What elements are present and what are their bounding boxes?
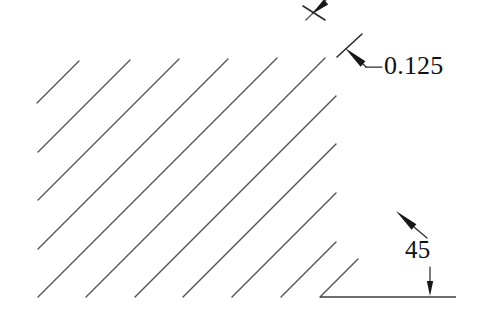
hatch-angle-dimension: 45 <box>396 211 433 296</box>
hatch-line <box>320 259 358 297</box>
top-hatch-pointer <box>303 0 328 20</box>
hatch-line <box>232 193 336 297</box>
spacing-leader-line <box>363 64 366 67</box>
technical-drawing-canvas: 0.125 45 <box>0 0 489 333</box>
hatch-spacing-value: 0.125 <box>384 51 444 80</box>
hatching-diagram: 0.125 45 <box>0 0 489 333</box>
angle-lower-arrowhead <box>427 281 433 296</box>
hatch-spacing-dimension: 0.125 <box>337 34 444 80</box>
hatch-angle-value: 45 <box>405 236 430 263</box>
hatch-line <box>86 58 325 297</box>
hatch-line <box>183 144 336 297</box>
spacing-arrowhead <box>345 48 365 67</box>
hatch-line <box>38 58 277 297</box>
hatch-line-group <box>37 0 358 297</box>
angle-upper-arrowhead <box>396 211 416 230</box>
hatch-line <box>135 96 336 297</box>
hatch-line <box>38 59 228 249</box>
top-pointer-arrowhead <box>312 0 328 14</box>
hatch-line <box>37 61 79 103</box>
spacing-extension-tick <box>337 34 362 57</box>
hatch-line <box>38 60 130 152</box>
